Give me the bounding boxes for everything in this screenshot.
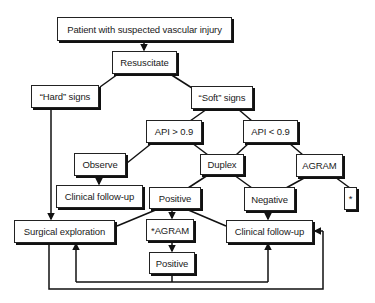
node-clinical-followup-left: Clinical follow-up: [56, 185, 143, 208]
node-surgical-exploration: Surgical exploration: [14, 220, 115, 243]
node-api-less: API < 0.9: [243, 120, 298, 143]
node-star: *: [344, 187, 357, 210]
node-hard-signs: “Hard” signs: [31, 85, 99, 108]
node-api-greater: API > 0.9: [146, 120, 202, 143]
node-positive-bottom: Positive: [149, 252, 195, 274]
node-clinical-followup-right: Clinical follow-up: [226, 220, 313, 243]
node-agram: AGRAM: [296, 154, 343, 177]
node-resuscitate: Resuscitate: [112, 51, 177, 74]
node-duplex: Duplex: [200, 154, 244, 175]
node-negative: Negative: [244, 187, 295, 211]
node-positive: Positive: [149, 187, 201, 209]
node-observe: Observe: [74, 153, 126, 176]
node-soft-signs: “Soft” signs: [191, 86, 253, 109]
node-star-agram: *AGRAM: [146, 219, 194, 241]
node-patient: Patient with suspected vascular injury: [57, 17, 232, 41]
